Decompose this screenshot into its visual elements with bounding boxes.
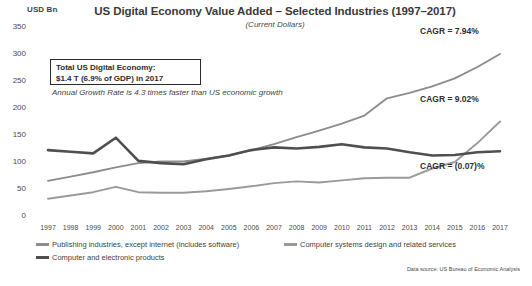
chart-legend: Publishing industries, except internet (… bbox=[36, 240, 506, 266]
x-axis-tick-1998: 1998 bbox=[60, 224, 82, 231]
x-axis-tick-2014: 2014 bbox=[421, 224, 443, 231]
y-axis-tick-100: 100 bbox=[0, 157, 26, 166]
callout-line-2: $1.4 T (6.9% of GDP) in 2017 bbox=[56, 73, 200, 84]
y-axis-tick-250: 250 bbox=[0, 76, 26, 85]
chart-container: USD Bn US Digital Economy Value Added – … bbox=[0, 0, 532, 286]
x-axis-tick-2017: 2017 bbox=[489, 224, 511, 231]
x-axis-tick-1997: 1997 bbox=[37, 224, 59, 231]
y-axis-tick-50: 50 bbox=[0, 184, 26, 193]
x-axis-tick-2002: 2002 bbox=[150, 224, 172, 231]
legend-label-2: Computer and electronic products bbox=[52, 253, 165, 262]
x-axis-tick-2013: 2013 bbox=[399, 224, 421, 231]
x-axis-tick-2008: 2008 bbox=[286, 224, 308, 231]
legend-label-0: Publishing industries, except internet (… bbox=[52, 240, 239, 249]
cagr-label-2: CAGR = (0.07)% bbox=[420, 161, 484, 171]
y-axis-tick-200: 200 bbox=[0, 103, 26, 112]
series-line-1 bbox=[48, 122, 500, 199]
growth-rate-note: Annual Growth Rate is 4.3 times faster t… bbox=[52, 88, 283, 97]
legend-item-2[interactable]: Computer and electronic products bbox=[36, 253, 165, 262]
x-axis-tick-2009: 2009 bbox=[308, 224, 330, 231]
x-axis-tick-2016: 2016 bbox=[466, 224, 488, 231]
legend-item-1[interactable]: Computer systems design and related serv… bbox=[284, 240, 456, 249]
cagr-label-1: CAGR = 9.02% bbox=[420, 94, 479, 104]
x-axis-tick-2011: 2011 bbox=[353, 224, 375, 231]
x-axis-tick-2015: 2015 bbox=[444, 224, 466, 231]
x-axis-tick-2012: 2012 bbox=[376, 224, 398, 231]
data-source-note: Data source: US Bureau of Economic Analy… bbox=[407, 266, 520, 272]
x-axis-tick-2001: 2001 bbox=[127, 224, 149, 231]
y-axis-tick-0: 0 bbox=[0, 211, 26, 220]
x-axis-tick-1999: 1999 bbox=[82, 224, 104, 231]
legend-swatch-icon-2 bbox=[36, 256, 49, 259]
chart-title: US Digital Economy Value Added – Selecte… bbox=[60, 5, 490, 17]
y-axis-tick-150: 150 bbox=[0, 130, 26, 139]
x-axis-tick-2007: 2007 bbox=[263, 224, 285, 231]
x-axis-tick-2003: 2003 bbox=[173, 224, 195, 231]
x-axis-tick-2004: 2004 bbox=[195, 224, 217, 231]
legend-item-0[interactable]: Publishing industries, except internet (… bbox=[36, 240, 239, 249]
y-axis-tick-300: 300 bbox=[0, 49, 26, 58]
x-axis-tick-2005: 2005 bbox=[218, 224, 240, 231]
x-axis-tick-2006: 2006 bbox=[240, 224, 262, 231]
y-axis-tick-350: 350 bbox=[0, 22, 26, 31]
legend-swatch-icon-0 bbox=[36, 243, 49, 246]
callout-box: Total US Digital Economy: $1.4 T (6.9% o… bbox=[50, 59, 201, 85]
legend-label-1: Computer systems design and related serv… bbox=[300, 240, 456, 249]
legend-swatch-icon-1 bbox=[284, 243, 297, 246]
cagr-label-0: CAGR = 7.94% bbox=[420, 26, 479, 36]
x-axis-tick-2000: 2000 bbox=[105, 224, 127, 231]
y-axis-unit-label: USD Bn bbox=[27, 5, 57, 14]
x-axis-tick-2010: 2010 bbox=[331, 224, 353, 231]
callout-line-1: Total US Digital Economy: bbox=[56, 62, 200, 73]
